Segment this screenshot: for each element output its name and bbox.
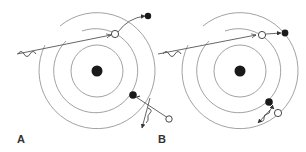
electron-icon bbox=[265, 98, 273, 106]
panel-label-a: A bbox=[17, 133, 25, 145]
photoelectric-auger-diagram bbox=[0, 0, 306, 152]
transition-line bbox=[136, 97, 168, 118]
panel-a bbox=[17, 13, 172, 129]
vacancy-icon bbox=[111, 30, 118, 37]
nucleus-icon bbox=[235, 66, 246, 77]
photoelectron-icon bbox=[145, 13, 151, 19]
emitted-photon-arrow bbox=[142, 98, 150, 128]
ejected-electron-path bbox=[266, 33, 281, 34]
vacancy-icon bbox=[258, 31, 265, 38]
nucleus-icon bbox=[92, 66, 103, 77]
incident-photon-arrow bbox=[158, 35, 256, 54]
photoelectron-icon bbox=[282, 30, 289, 37]
panel-b bbox=[158, 13, 298, 129]
vacancy-icon bbox=[274, 109, 281, 116]
panel-label-b: B bbox=[158, 133, 166, 145]
transition-arrow-icon bbox=[137, 96, 140, 97]
vacancy-icon bbox=[166, 116, 172, 122]
electron-icon bbox=[129, 91, 137, 99]
incident-photon-arrow bbox=[17, 35, 111, 54]
